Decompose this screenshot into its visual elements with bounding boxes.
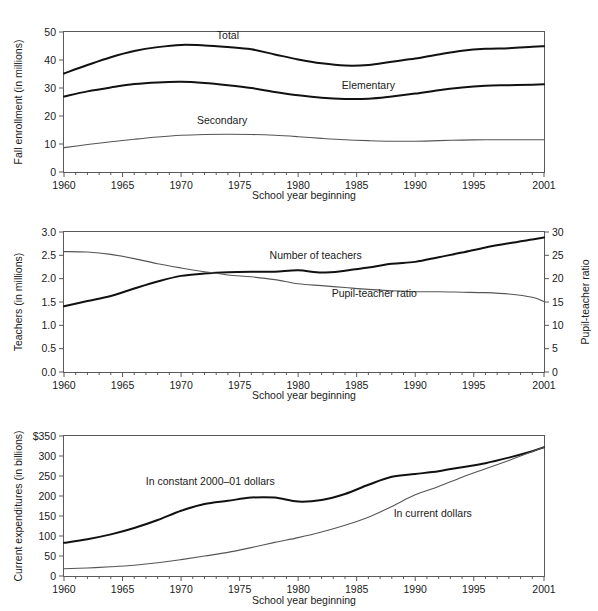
series-label-number-of-teachers: Number of teachers <box>270 249 362 261</box>
series-line-number-of-teachers <box>64 238 544 307</box>
series-line-total <box>64 45 544 74</box>
y-tick-label: 300 <box>38 450 56 462</box>
series-line-elementary <box>64 82 544 99</box>
y-axis-right-tick-labels: 051015202530 <box>552 226 564 378</box>
y-tick-label-right: 5 <box>552 342 558 354</box>
series-line-in-constant-2000-01-dollars <box>64 447 544 543</box>
y-tick-label: 150 <box>38 510 56 522</box>
y-tick-label: $350 <box>33 430 57 442</box>
x-tick-label: 1965 <box>111 379 135 391</box>
data-curves <box>64 45 544 148</box>
chart-panel-teachers: 196019651970197519801985199019952001 0.0… <box>0 205 598 405</box>
y-tick-label-right: 15 <box>552 296 564 308</box>
x-axis-title: School year beginning <box>252 189 356 201</box>
expenditures-axes <box>64 436 545 577</box>
x-tick-label: 1960 <box>52 379 76 391</box>
x-tick-label: 1965 <box>111 179 135 191</box>
x-tick-label: 1960 <box>52 583 76 595</box>
y-tick-label: 30 <box>44 82 56 94</box>
y-tick-label: 100 <box>38 530 56 542</box>
series-label-in-current-dollars: In current dollars <box>394 507 472 519</box>
y-axis-tick-labels: 01020304050 <box>44 26 56 178</box>
y-tick-label: 2.5 <box>41 249 56 261</box>
x-tick-label: 1990 <box>404 583 428 595</box>
y-axis-tick-labels: 0.00.51.01.52.02.53.0 <box>41 226 56 378</box>
x-tick-label: 1995 <box>462 583 486 595</box>
x-tick-label: 2001 <box>532 179 556 191</box>
series-label-elementary: Elementary <box>342 79 396 91</box>
y-tick-label: 1.5 <box>41 296 56 308</box>
x-tick-label: 1990 <box>404 379 428 391</box>
y-tick-label: 10 <box>44 138 56 150</box>
series-label-secondary: Secondary <box>197 114 248 126</box>
y-tick-label: 1.0 <box>41 319 56 331</box>
series-inline-labels: In constant 2000–01 dollarsIn current do… <box>146 475 472 519</box>
series-label-total: Total <box>217 29 239 41</box>
x-tick-label: 2001 <box>532 379 556 391</box>
enrollment-chart-svg: 196019651970197519801985199019952001 010… <box>0 0 598 205</box>
x-tick-label: 1970 <box>169 583 193 595</box>
y-tick-label: 20 <box>44 110 56 122</box>
series-line-secondary <box>64 134 544 147</box>
y-axis-title: Current expenditures (in billions) <box>12 430 24 581</box>
data-curves <box>64 238 544 307</box>
y-tick-label: 2.0 <box>41 272 56 284</box>
x-tick-label: 2001 <box>532 583 556 595</box>
charts-page: 196019651970197519801985199019952001 010… <box>0 0 598 611</box>
x-tick-label: 1965 <box>111 583 135 595</box>
y-tick-label: 3.0 <box>41 226 56 238</box>
x-axis-title: School year beginning <box>252 389 356 401</box>
x-tick-label: 1960 <box>52 179 76 191</box>
expenditures-chart-svg: 196019651970197519801985199019952001 050… <box>0 405 598 611</box>
y-tick-label: 0.0 <box>41 366 56 378</box>
y-axis-title: Fall enrollment (in millions) <box>12 40 24 165</box>
x-tick-label: 1975 <box>228 179 252 191</box>
plot-frame <box>64 436 545 577</box>
y-tick-label: 40 <box>44 54 56 66</box>
y-tick-label: 0.5 <box>41 342 56 354</box>
x-tick-label: 1970 <box>169 179 193 191</box>
series-label-in-constant-2000-01-dollars: In constant 2000–01 dollars <box>146 475 275 487</box>
y-tick-label: 250 <box>38 470 56 482</box>
x-tick-label: 1975 <box>228 379 252 391</box>
y-axis-right-title: Pupil-teacher ratio <box>579 259 591 344</box>
y-tick-label: 50 <box>44 26 56 38</box>
y-tick-label-right: 30 <box>552 226 564 238</box>
y-tick-label-right: 25 <box>552 249 564 261</box>
y-tick-label: 200 <box>38 490 56 502</box>
y-tick-label: 0 <box>50 570 56 582</box>
teachers-chart-svg: 196019651970197519801985199019952001 0.0… <box>0 205 598 405</box>
data-curves <box>64 447 544 569</box>
series-label-pupil-teacher-ratio: Pupil-teacher ratio <box>332 287 417 299</box>
x-tick-label: 1995 <box>462 379 486 391</box>
x-tick-label: 1995 <box>462 179 486 191</box>
x-tick-label: 1975 <box>228 583 252 595</box>
y-tick-label-right: 0 <box>552 366 558 378</box>
series-inline-labels: Number of teachersPupil-teacher ratio <box>270 249 417 299</box>
enrollment-axes <box>64 32 545 173</box>
y-tick-label-right: 10 <box>552 319 564 331</box>
x-axis-title: School year beginning <box>252 594 356 606</box>
plot-frame <box>64 32 545 173</box>
y-tick-label-right: 20 <box>552 272 564 284</box>
x-tick-label: 1970 <box>169 379 193 391</box>
chart-panel-expenditures: 196019651970197519801985199019952001 050… <box>0 405 598 611</box>
y-tick-label: 0 <box>50 166 56 178</box>
y-axis-title: Teachers (in millions) <box>12 253 24 352</box>
y-tick-label: 50 <box>44 550 56 562</box>
chart-panel-enrollment: 196019651970197519801985199019952001 010… <box>0 0 598 205</box>
y-axis-tick-labels: 050100150200250300$350 <box>33 430 57 582</box>
series-inline-labels: TotalElementarySecondary <box>197 29 396 127</box>
x-tick-label: 1990 <box>404 179 428 191</box>
